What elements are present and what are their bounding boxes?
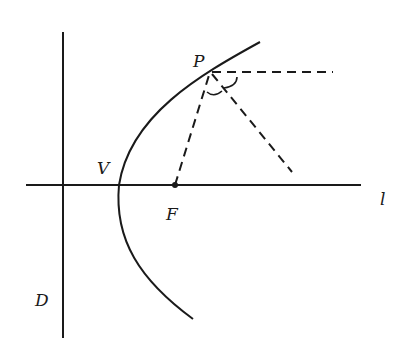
angle-arc-right <box>224 77 237 88</box>
angle-arc-left <box>207 91 222 95</box>
label-p: P <box>192 51 205 71</box>
label-l: l <box>380 189 385 209</box>
label-v: V <box>97 158 111 178</box>
normal-line-dashed <box>212 74 292 172</box>
focal-ray-dashed <box>175 72 210 185</box>
parabola-reflection-diagram: P V F D l <box>0 0 406 360</box>
label-f: F <box>165 204 179 224</box>
parabola-curve <box>118 42 260 319</box>
label-d: D <box>34 290 49 310</box>
